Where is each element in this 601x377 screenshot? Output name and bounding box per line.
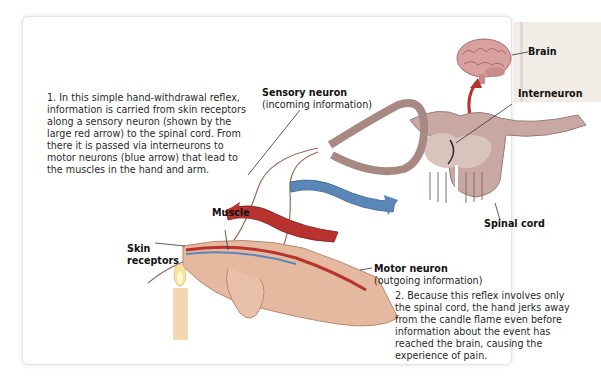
label-skin: Skin [127,243,150,255]
hand-illustration [183,240,398,326]
label-sensory-neuron-sub: (incoming information) [262,99,372,111]
label-spinal-cord: Spinal cord [484,218,545,230]
label-interneuron: Interneuron [518,88,583,100]
caption-2: 2. Because this reflex involves only the… [395,290,570,362]
spinal-cord-section [410,111,586,205]
label-motor-neuron: Motor neuron [374,263,448,275]
dorsal-root [330,103,424,171]
label-brain: Brain [528,46,557,58]
label-receptors: receptors [127,255,179,267]
label-motor-neuron-sub: (outgoing information) [374,275,482,287]
label-sensory-neuron: Sensory neuron [262,87,347,99]
label-muscle: Muscle [212,207,250,219]
caption-1: 1. In this simple hand-withdrawal reflex… [47,92,252,176]
brain-icon [457,39,511,84]
candle-icon [173,264,188,340]
motor-arrow [290,180,395,212]
